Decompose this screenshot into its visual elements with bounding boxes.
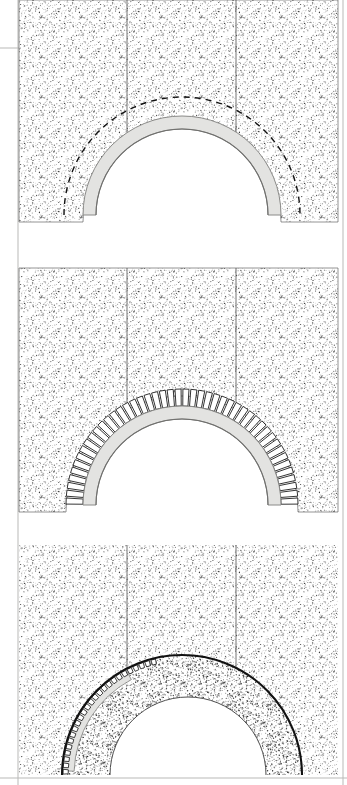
panel-3-backfill-and-haunching (19, 545, 338, 775)
voussoir-block (281, 498, 298, 504)
voussoir-block (65, 750, 71, 755)
voussoir-block (190, 389, 197, 406)
voussoir-block (183, 389, 189, 406)
voussoir-block (64, 757, 70, 762)
voussoir-block (280, 490, 297, 497)
figure-canvas (0, 0, 347, 785)
arch-construction-figure (0, 0, 347, 785)
voussoir-block (167, 389, 174, 406)
voussoir-block (63, 763, 69, 768)
voussoir-block (175, 389, 181, 406)
voussoir-block (66, 498, 83, 504)
voussoir-block (66, 490, 83, 497)
panel-1-centering-erected (19, 0, 338, 222)
panel-2-voussoirs-set (19, 268, 338, 512)
voussoir-block (63, 769, 68, 774)
